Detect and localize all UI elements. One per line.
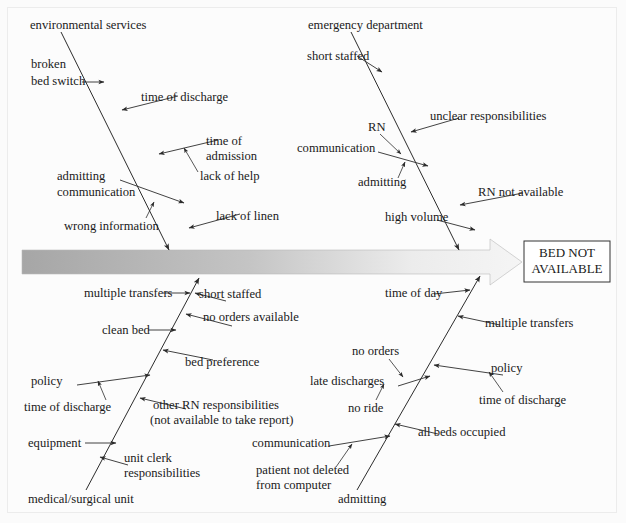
label-late-discharges: late discharges [310,374,384,388]
label-admission: admission [206,149,258,163]
label-emergency-department: emergency department [308,18,423,32]
label-communication-ul: communication [57,185,136,199]
label-admitting-ur: admitting [358,175,407,189]
bone-upper-right: emergency department short staffed uncle… [297,18,564,250]
bone-lower-right: admitting time of day multiple transfers… [252,276,574,506]
label-environmental-services: environmental services [30,18,147,32]
fishbone-diagram-canvas: BED NOT AVAILABLE environmental services… [0,0,626,523]
bone-upper-left-spine [61,32,169,250]
label-communication-lr: communication [252,436,331,450]
label-time-of-discharge-ul: time of discharge [141,90,229,104]
label-unclear-responsibilities: unclear responsibilities [430,109,547,123]
label-policy-lr: policy [491,361,523,375]
label-clean-bed: clean bed [102,323,151,337]
label-other-rn-responsibilities: other RN responsibilities [153,398,279,412]
label-policy-ll: policy [31,374,63,388]
label-multiple-transfers-lr: multiple transfers [485,316,574,330]
label-responsibilities: responsibilities [124,466,200,480]
label-broken: broken [31,57,67,71]
effect-box: BED NOT AVAILABLE [524,241,610,282]
label-communication-ur: communication [297,141,376,155]
bone-upper-left: environmental services broken bed switch… [30,18,280,250]
label-medical-surgical-unit: medical/surgical unit [28,492,134,506]
label-rn: RN [368,120,386,134]
label-unit-clerk: unit clerk [124,451,173,465]
label-time-of-discharge-lr: time of discharge [479,393,567,407]
branch-lack-of-help [184,148,198,172]
label-rn-not-available: RN not available [478,185,564,199]
branch-wrong-information [146,202,154,218]
label-bed-switch: bed switch [31,74,86,88]
effect-label-line2: AVAILABLE [531,261,602,276]
label-lack-of-help: lack of help [200,169,259,183]
branch-communication-ur [378,152,428,166]
branch-communication-lr [329,436,390,446]
label-patient-not-deleted: patient not deleted [256,463,350,477]
label-bed-preference: bed preference [185,355,260,369]
label-multiple-transfers-ll: multiple transfers [84,286,173,300]
label-wrong-information: wrong information [64,219,159,233]
label-time-of: time of [206,134,243,148]
branch-rn [380,134,401,154]
label-from-computer: from computer [256,478,332,492]
label-admitting-ul: admitting [57,169,106,183]
label-short-staffed-ur: short staffed [307,49,370,63]
label-no-orders: no orders [352,344,399,358]
effect-label-line1: BED NOT [539,245,595,260]
branch-policy-ll [77,375,150,385]
label-equipment: equipment [28,436,82,450]
label-time-of-day: time of day [385,286,443,300]
label-no-ride: no ride [348,401,384,415]
label-time-of-discharge-ll: time of discharge [24,400,112,414]
branch-no-orders [389,359,403,377]
label-all-beds-occupied: all beds occupied [418,425,506,439]
label-high-volume: high volume [385,210,449,224]
branch-late-discharges [398,376,430,386]
label-admitting-lr: admitting [338,492,387,506]
spine-arrow [22,239,522,285]
label-no-orders-available: no orders available [203,310,299,324]
branch-time-of-discharge-ll [98,381,106,400]
label-short-staffed-ll: short staffed [199,287,262,301]
label-lack-of-linen: lack of linen [216,209,280,223]
fishbone-diagram-page: BED NOT AVAILABLE environmental services… [0,0,626,523]
label-not-available-to-take-report: (not available to take report) [150,413,293,427]
